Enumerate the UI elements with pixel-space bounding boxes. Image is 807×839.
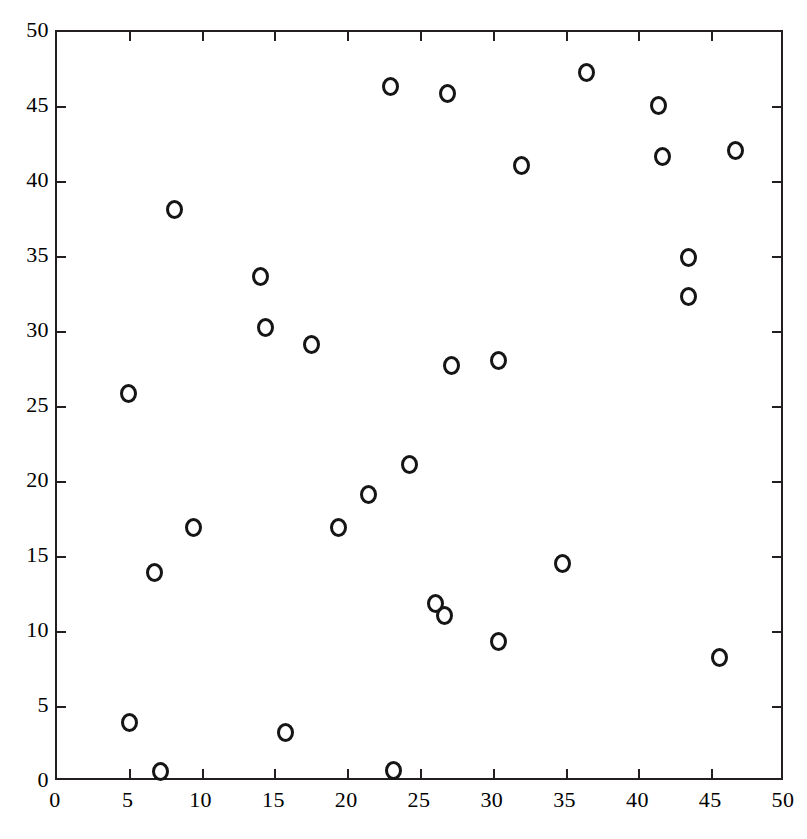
x-axis-tick-mark-top: [638, 32, 640, 41]
y-axis-tick-label: 10: [3, 619, 49, 641]
x-axis-tick-mark: [274, 769, 276, 778]
y-axis-tick-label: 40: [3, 169, 49, 191]
data-point-marker: [727, 141, 744, 160]
y-axis-tick-label: 20: [3, 469, 49, 491]
x-axis-tick-mark: [420, 769, 422, 778]
data-point-marker: [436, 606, 453, 625]
data-point-marker: [443, 356, 460, 375]
data-point-marker: [654, 147, 671, 166]
y-axis-tick-label: 5: [3, 694, 49, 716]
data-point-marker: [257, 318, 274, 337]
data-point-marker: [252, 267, 269, 286]
y-axis-tick-mark-right: [772, 256, 781, 258]
data-point-marker: [439, 84, 456, 103]
x-axis-tick-mark: [493, 769, 495, 778]
y-axis-tick-mark-right: [772, 706, 781, 708]
x-axis-tick-mark: [347, 769, 349, 778]
x-axis-tick-label: 45: [680, 789, 740, 811]
data-point-marker: [711, 648, 728, 667]
x-axis-tick-mark: [638, 769, 640, 778]
y-axis-tick-mark: [57, 556, 66, 558]
x-axis-tick-mark-top: [420, 32, 422, 41]
x-axis-tick-mark: [129, 769, 131, 778]
data-point-marker: [554, 554, 571, 573]
y-axis-tick-label: 30: [3, 319, 49, 341]
plot-area: [55, 30, 783, 780]
data-point-marker: [120, 384, 137, 403]
x-axis-tick-mark-top: [202, 32, 204, 41]
x-axis-tick-label: 25: [389, 789, 449, 811]
data-point-marker: [360, 485, 377, 504]
data-point-marker: [680, 287, 697, 306]
x-axis-tick-label: 5: [98, 789, 158, 811]
data-point-marker: [330, 518, 347, 537]
data-point-marker: [401, 455, 418, 474]
x-axis-tick-mark: [202, 769, 204, 778]
x-axis-tick-mark-top: [129, 32, 131, 41]
y-axis-tick-mark-right: [772, 331, 781, 333]
x-axis-tick-label: 10: [171, 789, 231, 811]
data-point-marker: [490, 351, 507, 370]
x-axis-tick-label: 50: [753, 789, 807, 811]
data-point-marker: [152, 762, 169, 781]
x-axis-tick-labels: 05101520253035404550: [0, 789, 807, 823]
x-axis-tick-mark: [566, 769, 568, 778]
y-axis-tick-label: 50: [3, 19, 49, 41]
data-point-marker: [490, 632, 507, 651]
y-axis-tick-label: 35: [3, 244, 49, 266]
data-point-marker: [185, 518, 202, 537]
data-point-marker: [385, 761, 402, 780]
y-axis-tick-mark: [57, 481, 66, 483]
x-axis-tick-label: 20: [316, 789, 376, 811]
x-axis-tick-label: 40: [607, 789, 667, 811]
y-axis-tick-mark-right: [772, 181, 781, 183]
x-axis-tick-label: 35: [535, 789, 595, 811]
y-axis-tick-mark: [57, 106, 66, 108]
y-axis-tick-mark-right: [772, 406, 781, 408]
y-axis-tick-mark-right: [772, 481, 781, 483]
data-point-marker: [277, 723, 294, 742]
data-point-marker: [303, 335, 320, 354]
x-axis-tick-mark-top: [493, 32, 495, 41]
y-axis-tick-label: 15: [3, 544, 49, 566]
y-axis-tick-mark: [57, 706, 66, 708]
y-axis-tick-mark-right: [772, 631, 781, 633]
data-point-marker: [121, 713, 138, 732]
data-point-marker: [146, 563, 163, 582]
data-point-marker: [680, 248, 697, 267]
data-point-marker: [513, 156, 530, 175]
y-axis-tick-mark: [57, 181, 66, 183]
y-axis-tick-mark: [57, 406, 66, 408]
x-axis-tick-mark-top: [566, 32, 568, 41]
data-point-marker: [650, 96, 667, 115]
x-axis-tick-label: 15: [243, 789, 303, 811]
y-axis-tick-mark-right: [772, 106, 781, 108]
x-axis-tick-mark-top: [274, 32, 276, 41]
y-axis-tick-mark: [57, 631, 66, 633]
y-axis-tick-mark: [57, 331, 66, 333]
data-point-marker: [166, 200, 183, 219]
x-axis-tick-label: 30: [462, 789, 522, 811]
y-axis-tick-label: 25: [3, 394, 49, 416]
y-axis-tick-labels: 05101520253035404550: [0, 0, 49, 839]
y-axis-tick-label: 0: [3, 769, 49, 791]
data-point-marker: [578, 63, 595, 82]
y-axis-tick-mark-right: [772, 556, 781, 558]
x-axis-tick-mark-top: [347, 32, 349, 41]
y-axis-tick-mark: [57, 256, 66, 258]
x-axis-tick-mark-top: [711, 32, 713, 41]
y-axis-tick-label: 45: [3, 94, 49, 116]
scatter-plot-figure: 05101520253035404550 0510152025303540455…: [0, 0, 807, 839]
x-axis-tick-label: 0: [25, 789, 85, 811]
data-point-marker: [382, 77, 399, 96]
x-axis-tick-mark: [711, 769, 713, 778]
